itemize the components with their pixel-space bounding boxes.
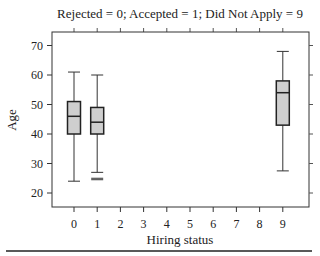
- x-axis-label: Hiring status: [147, 232, 214, 247]
- x-tick-label: 3: [141, 217, 147, 231]
- chart-title: Rejected = 0; Accepted = 1; Did Not Appl…: [57, 6, 303, 21]
- iqr-box: [276, 81, 289, 125]
- x-tick-label: 5: [187, 217, 193, 231]
- boxplot-chart: Rejected = 0; Accepted = 1; Did Not Appl…: [0, 0, 320, 256]
- iqr-box: [68, 102, 81, 134]
- box-0: [68, 72, 81, 181]
- y-tick-label: 50: [31, 98, 43, 112]
- y-tick-label: 60: [31, 68, 43, 82]
- y-tick-label: 40: [31, 127, 43, 141]
- y-tick-label: 70: [31, 39, 43, 53]
- x-tick-label: 2: [117, 217, 123, 231]
- box-1: [91, 75, 104, 180]
- box-9: [276, 51, 289, 170]
- x-tick-label: 6: [210, 217, 216, 231]
- y-axis-label: Age: [4, 109, 19, 131]
- iqr-box: [91, 107, 104, 134]
- x-axis: 0123456789: [71, 207, 286, 231]
- y-axis: 203040506070: [31, 39, 52, 201]
- x-tick-label: 4: [164, 217, 170, 231]
- y-tick-label: 20: [31, 186, 43, 200]
- boxes: [68, 51, 290, 181]
- x-tick-label: 0: [71, 217, 77, 231]
- x-tick-label: 1: [94, 217, 100, 231]
- right-axis-ticks: [309, 46, 313, 194]
- y-tick-label: 30: [31, 157, 43, 171]
- x-tick-label: 7: [233, 217, 239, 231]
- top-axis-ticks: [74, 28, 283, 32]
- x-tick-label: 8: [257, 217, 263, 231]
- x-tick-label: 9: [280, 217, 286, 231]
